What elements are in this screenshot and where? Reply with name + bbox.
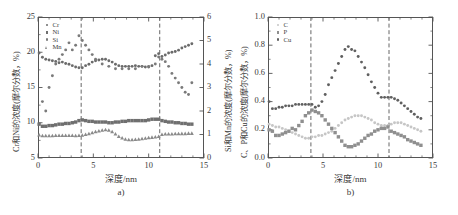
panel-caption-a: a) [118, 187, 125, 197]
x-axis-label-b: 深度/nm [334, 172, 366, 185]
x-tick-label: 5 [321, 161, 325, 170]
y-tick-label-left: 25 [27, 12, 35, 21]
legend-item-cr: Cr [44, 21, 62, 28]
y-tick-label-right: 1 [207, 129, 211, 138]
chart-panel-a: Cr和Ni的浓度(摩尔分数，%) Si和Mn的浓度(摩尔分数，%) Cr Ni … [0, 0, 229, 215]
x-tick-label: 15 [429, 161, 437, 170]
legend-label-si: Si [53, 36, 59, 43]
x-tick-label: 0 [36, 161, 40, 170]
legend-marker-dot-icon [275, 21, 281, 28]
legend-label-p: P [284, 28, 288, 35]
legend-label-cu: Cu [284, 36, 292, 43]
legend-marker-triangle-icon [44, 43, 50, 50]
y-tick-label-right: 4 [207, 59, 211, 68]
legend-item-p: P [275, 28, 291, 35]
series-cu [268, 45, 423, 120]
legend-label-cr: Cr [53, 21, 60, 28]
y-tick-label-right: 0 [207, 153, 211, 162]
panel-caption-b: b) [347, 187, 355, 197]
legend-b: C P Cu [275, 21, 291, 43]
legend-item-si: Si [44, 36, 62, 43]
y-tick-label-left: 5 [31, 153, 35, 162]
y-tick-label-left: 0.2 [255, 124, 265, 133]
series-p [267, 108, 422, 148]
legend-label-c: C [284, 21, 288, 28]
legend-label-mn: Mn [53, 43, 62, 50]
y-tick-label-right: 6 [207, 12, 211, 21]
x-tick-label: 10 [374, 161, 382, 170]
legend-marker-square-icon [44, 29, 50, 36]
legend-item-mn: Mn [44, 43, 62, 50]
y-tick-label-left: 0.4 [255, 96, 265, 105]
y-tick-label-left: 0.6 [255, 68, 265, 77]
y-tick-label-left: 0.0 [255, 153, 265, 162]
chart-panel-b: C、P和Cu的浓度(摩尔分数，%) C P Cu 深度/nm b) 051015… [229, 0, 458, 215]
legend-a: Cr Ni Si Mn [44, 21, 62, 51]
series-mn [37, 128, 194, 141]
legend-marker-square-icon [275, 29, 281, 36]
y-tick-label-right: 5 [207, 35, 211, 44]
legend-item-ni: Ni [44, 28, 62, 35]
legend-item-c: C [275, 21, 291, 28]
y-axis-label-left-a: Cr和Ni的浓度(摩尔分数，%) [9, 51, 21, 152]
x-axis-label-a: 深度/nm [105, 172, 137, 185]
y-tick-label-left: 0.8 [255, 40, 265, 49]
x-tick-label: 0 [266, 161, 270, 170]
legend-label-ni: Ni [53, 28, 60, 35]
y-tick-label-right: 2 [207, 106, 211, 115]
y-tick-label-right: 3 [207, 82, 211, 91]
x-tick-label: 15 [200, 161, 208, 170]
series-si [41, 34, 193, 112]
x-tick-label: 5 [91, 161, 95, 170]
y-axis-label-left-b: C、P和Cu的浓度(摩尔分数，%) [237, 46, 249, 158]
x-tick-label: 10 [144, 161, 152, 170]
legend-marker-dot-icon [44, 21, 50, 28]
y-tick-label-left: 15 [27, 82, 35, 91]
figure-container: Cr和Ni的浓度(摩尔分数，%) Si和Mn的浓度(摩尔分数，%) Cr Ni … [0, 0, 458, 215]
legend-item-cu: Cu [275, 36, 291, 43]
y-tick-label-left: 10 [27, 117, 35, 126]
series-ni [37, 118, 193, 128]
legend-marker-dot-icon [44, 36, 50, 43]
y-tick-label-left: 20 [27, 47, 35, 56]
legend-marker-dot-icon [275, 36, 281, 43]
y-tick-label-left: 1.0 [255, 12, 265, 21]
